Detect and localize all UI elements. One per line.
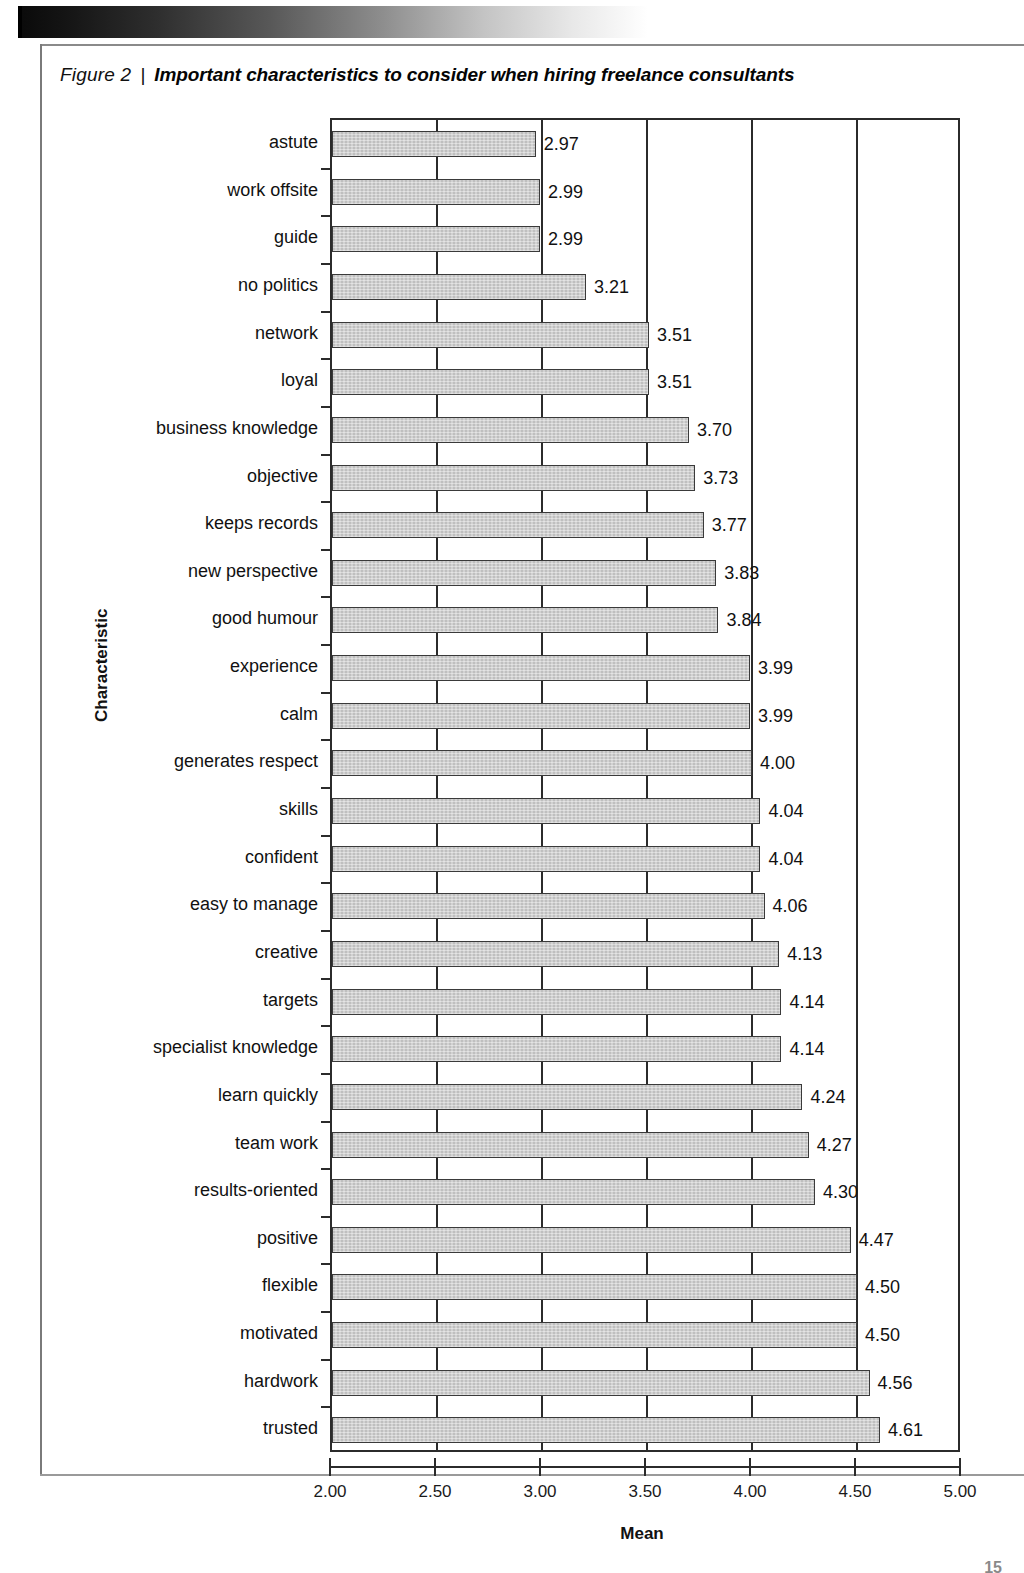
- y-axis-tick: [321, 168, 332, 170]
- y-axis-tick: [321, 501, 332, 503]
- bar: [332, 703, 750, 729]
- x-axis-tick: [434, 1458, 436, 1476]
- bar-value-label: 4.04: [760, 846, 803, 872]
- bar-row: 3.83: [332, 549, 958, 597]
- y-axis-tick: [321, 978, 332, 980]
- bar-row: 3.70: [332, 406, 958, 454]
- bar: [332, 941, 779, 967]
- bar-value-label: 3.73: [695, 465, 738, 491]
- bar: [332, 322, 649, 348]
- bar: [332, 560, 716, 586]
- x-axis-tick: [854, 1458, 856, 1476]
- bar: [332, 226, 540, 252]
- x-axis-label: 4.50: [815, 1482, 895, 1502]
- bar-row: 3.84: [332, 596, 958, 644]
- bar-row: 4.00: [332, 739, 958, 787]
- bar-value-label: 3.77: [704, 512, 747, 538]
- category-label: work offsite: [28, 177, 318, 203]
- y-axis-tick: [321, 1073, 332, 1075]
- category-label: trusted: [28, 1415, 318, 1441]
- y-axis-tick: [321, 882, 332, 884]
- y-axis-tick: [321, 644, 332, 646]
- y-axis-tick: [321, 1406, 332, 1408]
- x-axis-tick: [329, 1458, 331, 1476]
- x-axis-label: 2.50: [395, 1482, 475, 1502]
- bar-value-label: 4.50: [857, 1322, 900, 1348]
- x-axis-label: 5.00: [920, 1482, 1000, 1502]
- category-label: specialist knowledge: [28, 1034, 318, 1060]
- category-label: guide: [28, 224, 318, 250]
- category-label: hardwork: [28, 1368, 318, 1394]
- category-label: skills: [28, 796, 318, 822]
- category-label: learn quickly: [28, 1082, 318, 1108]
- bar: [332, 1322, 857, 1348]
- x-axis-title: Mean: [0, 1524, 1024, 1544]
- category-label: no politics: [28, 272, 318, 298]
- bar-row: 4.47: [332, 1216, 958, 1264]
- bar: [332, 798, 760, 824]
- bar: [332, 1227, 851, 1253]
- bar-row: 4.14: [332, 1025, 958, 1073]
- bar-value-label: 4.30: [815, 1179, 858, 1205]
- y-axis-tick: [321, 1168, 332, 1170]
- x-axis-tick: [749, 1458, 751, 1476]
- figure-number: Figure 2: [60, 64, 131, 86]
- bar-row: 3.99: [332, 692, 958, 740]
- y-axis-tick: [321, 358, 332, 360]
- bar: [332, 131, 536, 157]
- bar-row: 4.50: [332, 1263, 958, 1311]
- bar-value-label: 4.06: [765, 893, 808, 919]
- figure-frame-top-rule: [40, 44, 1024, 46]
- bar-value-label: 3.21: [586, 274, 629, 300]
- bar-row: 4.06: [332, 882, 958, 930]
- bar-value-label: 4.13: [779, 941, 822, 967]
- bar: [332, 512, 704, 538]
- bar-value-label: 4.14: [781, 989, 824, 1015]
- bar-value-label: 2.97: [536, 131, 579, 157]
- bar-row: 4.24: [332, 1073, 958, 1121]
- bar: [332, 1370, 870, 1396]
- category-label: good humour: [28, 605, 318, 631]
- category-label: creative: [28, 939, 318, 965]
- category-label: easy to manage: [28, 891, 318, 917]
- caption-separator: |: [140, 64, 145, 86]
- y-axis-tick: [321, 263, 332, 265]
- bar-row: 4.13: [332, 930, 958, 978]
- y-axis-tick: [321, 1216, 332, 1218]
- bar: [332, 369, 649, 395]
- y-axis-tick: [321, 1121, 332, 1123]
- bar: [332, 179, 540, 205]
- bar-value-label: 3.51: [649, 369, 692, 395]
- bar-value-label: 4.24: [802, 1084, 845, 1110]
- x-axis-label: 4.00: [710, 1482, 790, 1502]
- category-label: network: [28, 320, 318, 346]
- y-axis-tick: [321, 406, 332, 408]
- category-label: calm: [28, 701, 318, 727]
- bar-value-label: 4.04: [760, 798, 803, 824]
- bar-row: 4.50: [332, 1311, 958, 1359]
- bar-row: 4.04: [332, 835, 958, 883]
- y-axis-tick: [321, 1359, 332, 1361]
- bar-value-label: 3.70: [689, 417, 732, 443]
- bar-row: 4.30: [332, 1168, 958, 1216]
- bar-value-label: 2.99: [540, 226, 583, 252]
- bar-value-label: 4.47: [851, 1227, 894, 1253]
- bar: [332, 846, 760, 872]
- bar-value-label: 4.14: [781, 1036, 824, 1062]
- bar-value-label: 4.00: [752, 750, 795, 776]
- bar-row: 3.51: [332, 311, 958, 359]
- bar-value-label: 4.27: [809, 1132, 852, 1158]
- category-label: keeps records: [28, 510, 318, 536]
- bar-row: 4.61: [332, 1406, 958, 1454]
- bar: [332, 1179, 815, 1205]
- bar: [332, 1084, 802, 1110]
- category-label: new perspective: [28, 558, 318, 584]
- category-label: flexible: [28, 1272, 318, 1298]
- bar: [332, 607, 718, 633]
- bar-row: 3.73: [332, 454, 958, 502]
- figure-title: Important characteristics to consider wh…: [154, 64, 794, 86]
- y-axis-tick: [321, 835, 332, 837]
- scan-artifact-edge: [18, 6, 22, 38]
- bar-value-label: 4.50: [857, 1274, 900, 1300]
- bar: [332, 1132, 809, 1158]
